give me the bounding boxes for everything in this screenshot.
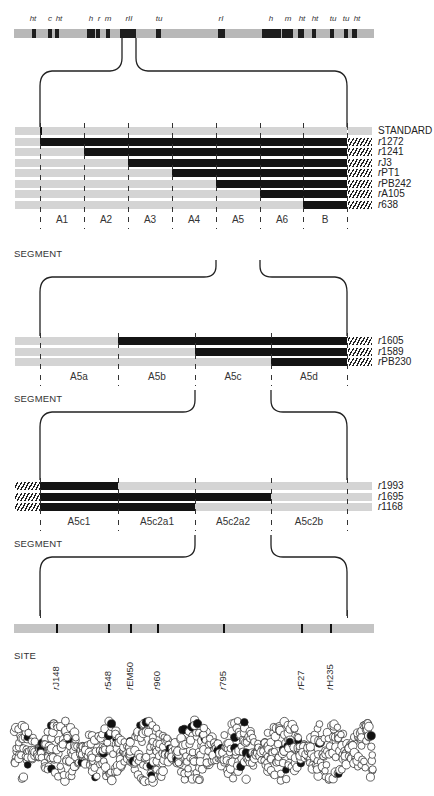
dna-helix-model	[0, 0, 434, 796]
